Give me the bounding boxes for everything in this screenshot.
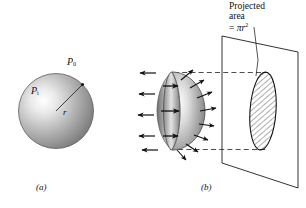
caption-b-text: (b) (201, 182, 212, 192)
annotation-exponent: 2 (245, 22, 248, 28)
label-inside-pressure: Pi (31, 86, 39, 97)
label-radius: r (63, 108, 67, 117)
caption-panel-a: (a) (36, 183, 47, 192)
label-P0-subscript: 0 (73, 61, 76, 67)
arrow-outward (177, 150, 186, 160)
annotation-projected-area: Projected area = πr2 (229, 2, 265, 34)
label-outside-pressure: P0 (67, 57, 76, 68)
annotation-equals: = (229, 23, 237, 33)
caption-a-text: (a) (36, 182, 47, 192)
radius-endpoint-dot (81, 83, 84, 86)
annotation-line-3: = πr2 (229, 22, 265, 34)
panel-a-sphere (19, 74, 94, 149)
arrow-outward (186, 144, 198, 152)
pressure-arrows-leftward (138, 73, 158, 150)
annotation-line-2: area (229, 12, 265, 22)
caption-panel-b: (b) (201, 183, 212, 192)
label-Pi-subscript: i (37, 90, 39, 96)
